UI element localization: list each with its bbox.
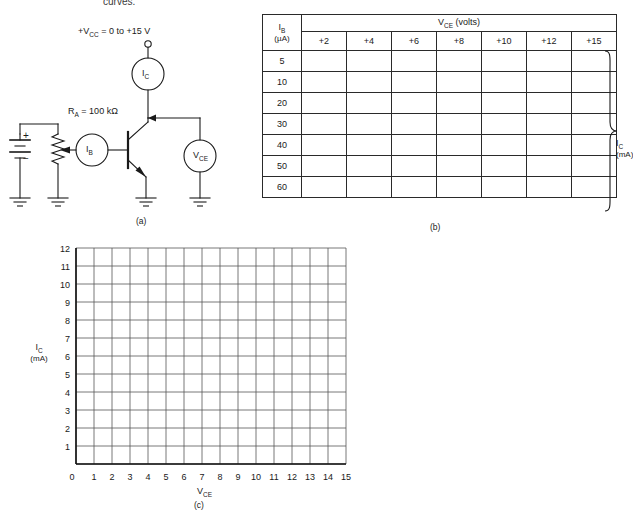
y-tick: 4: [65, 388, 70, 398]
table-cell[interactable]: [392, 156, 437, 177]
x-tick: 5: [163, 472, 168, 482]
table-cell[interactable]: [482, 51, 527, 72]
table-cell[interactable]: [347, 72, 392, 93]
table-cell[interactable]: [437, 156, 482, 177]
table-cell[interactable]: [347, 177, 392, 198]
table-cell[interactable]: [347, 114, 392, 135]
vce-group-sub: CE: [444, 22, 453, 29]
table-cell[interactable]: [392, 72, 437, 93]
vcc-label-value: = 0 to +15 V: [101, 26, 150, 36]
ib-header-unit: (µA): [263, 34, 301, 43]
table-brace: [604, 50, 618, 216]
y-tick: 5: [65, 370, 70, 380]
table-cell[interactable]: [437, 114, 482, 135]
table-cell[interactable]: [482, 135, 527, 156]
ib-meter-label: IB: [86, 144, 93, 156]
collector-current-arrow-icon: [148, 115, 156, 122]
x-tick: 11: [269, 472, 278, 482]
table-cell[interactable]: [527, 72, 572, 93]
table-cell[interactable]: [437, 177, 482, 198]
x-tick: 7: [199, 472, 204, 482]
battery-plus-sign: +: [23, 130, 29, 142]
table-cell[interactable]: [482, 72, 527, 93]
x-tick: 12: [287, 472, 297, 482]
y-tick: 2: [65, 424, 70, 434]
table-cell[interactable]: [302, 114, 347, 135]
table-cell[interactable]: [527, 93, 572, 114]
table-cell[interactable]: [302, 156, 347, 177]
table-cell[interactable]: [527, 177, 572, 198]
table-row-label: 20: [263, 93, 302, 114]
table-cell[interactable]: [392, 135, 437, 156]
table-cell[interactable]: [302, 72, 347, 93]
table-col-header: +8: [437, 32, 482, 51]
brace-label-sub: C: [619, 143, 624, 150]
graph-svg[interactable]: 12 11 10 9 8 7 6 5 4 3 2 1 0 1 2 3 4 5 6…: [32, 238, 372, 518]
table-cell[interactable]: [302, 93, 347, 114]
circuit-diagram: +VCC = 0 to +15 V IC RA = 100 kΩ IB VCE …: [0, 22, 250, 222]
table-cell[interactable]: [437, 135, 482, 156]
brace-label-unit: (mA): [616, 150, 633, 159]
table-cell[interactable]: [347, 93, 392, 114]
table-row-label: 5: [263, 51, 302, 72]
measurement-table: IB (µA) VCE (volts) +2 +4 +6 +8 +10 +12 …: [262, 14, 617, 198]
y-tick: 6: [65, 352, 70, 362]
table-cell[interactable]: [302, 135, 347, 156]
brace-icon: [604, 50, 618, 212]
table-cell[interactable]: [527, 135, 572, 156]
table-cell[interactable]: [302, 177, 347, 198]
table-col-header: +15: [572, 32, 617, 51]
x-tick: 14: [323, 472, 333, 482]
table-row-label: 30: [263, 114, 302, 135]
ic-meter-label-sub: C: [145, 73, 150, 80]
y-tick: 11: [61, 262, 70, 272]
x-tick: 3: [127, 472, 132, 482]
vce-group-unit: (volts): [456, 17, 481, 27]
vce-meter-label: VCE: [193, 150, 208, 162]
x-axis-title-sub: CE: [203, 491, 212, 498]
x-tick: 1: [91, 472, 96, 482]
table-header-row-cols: +2 +4 +6 +8 +10 +12 +15: [263, 32, 617, 51]
table-cell[interactable]: [347, 135, 392, 156]
x-tick: 9: [235, 472, 240, 482]
table-row: 20: [263, 93, 617, 114]
table-cell[interactable]: [482, 114, 527, 135]
table-cell[interactable]: [392, 51, 437, 72]
table-cell[interactable]: [482, 156, 527, 177]
grid-lines: [76, 248, 346, 464]
table-cell[interactable]: [392, 177, 437, 198]
table-row-label: 50: [263, 156, 302, 177]
y-tick: 3: [65, 406, 70, 416]
table-col-header: +10: [482, 32, 527, 51]
table-cell[interactable]: [437, 93, 482, 114]
circuit-svg: [0, 22, 250, 222]
table-cell[interactable]: [437, 51, 482, 72]
y-tick: 1: [65, 442, 70, 452]
caption-b: (b): [430, 222, 440, 232]
table-row: 5: [263, 51, 617, 72]
table-cell[interactable]: [527, 51, 572, 72]
table-row: 10: [263, 72, 617, 93]
table-cell[interactable]: [482, 177, 527, 198]
table-row: 60: [263, 177, 617, 198]
y-axis-title-sub: C: [38, 347, 43, 354]
x-tick: 15: [341, 472, 351, 482]
table-cell[interactable]: [527, 114, 572, 135]
table-row: 40: [263, 135, 617, 156]
table-cell[interactable]: [392, 93, 437, 114]
table-cell[interactable]: [347, 156, 392, 177]
table-cell[interactable]: [392, 114, 437, 135]
table-cell[interactable]: [302, 51, 347, 72]
table-cell[interactable]: [527, 156, 572, 177]
table-row-label: 10: [263, 72, 302, 93]
x-tick: 13: [305, 472, 315, 482]
table-cell[interactable]: [482, 93, 527, 114]
y-tick: 8: [65, 316, 70, 326]
ra-label-value: = 100 kΩ: [81, 106, 118, 116]
x-tick: 6: [181, 472, 186, 482]
vcc-terminal-icon: [145, 41, 151, 47]
y-tick: 9: [65, 298, 70, 308]
table-cell[interactable]: [347, 51, 392, 72]
table-cell[interactable]: [437, 72, 482, 93]
vce-meter-label-sub: CE: [199, 155, 208, 162]
